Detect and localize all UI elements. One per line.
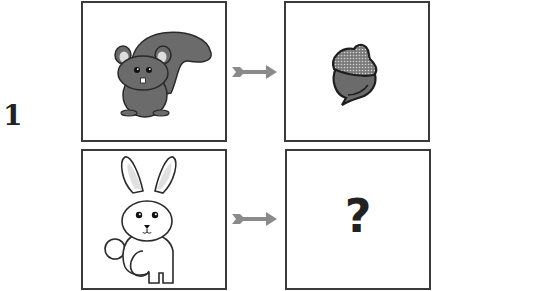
arrow-right-icon (232, 211, 278, 227)
rabbit-icon (83, 151, 225, 288)
question-mark: ? (287, 189, 429, 243)
acorn-icon (286, 3, 428, 140)
squirrel-icon (83, 3, 225, 140)
puzzle-number: 1 (3, 101, 22, 131)
source-box-rabbit (81, 149, 227, 290)
source-box-squirrel (81, 1, 227, 142)
target-box-acorn (284, 1, 430, 142)
arrow-right-icon (232, 64, 278, 80)
target-box-unknown: ? (285, 149, 431, 290)
